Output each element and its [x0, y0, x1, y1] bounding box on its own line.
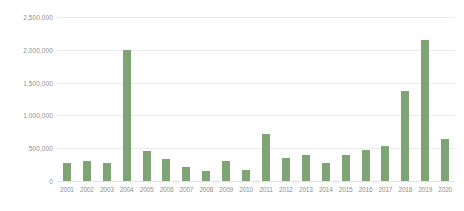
- x-axis-tick-label: 2019: [415, 183, 435, 199]
- bar-slot: [57, 17, 77, 181]
- bar-slot: [316, 17, 336, 181]
- bar[interactable]: [123, 50, 131, 181]
- x-axis-tick-label: 2011: [256, 183, 276, 199]
- y-axis-tick-label: 500,000: [29, 145, 53, 152]
- bar[interactable]: [322, 163, 330, 181]
- bar-slot: [137, 17, 157, 181]
- x-axis: 2001200220032004200520062007200820092010…: [57, 183, 455, 199]
- x-axis-tick-label: 2010: [236, 183, 256, 199]
- bar[interactable]: [441, 139, 449, 181]
- x-axis-tick-label: 2008: [196, 183, 216, 199]
- bar-slot: [395, 17, 415, 181]
- bar-chart: 0500,0001,000,0001,500,0002,000,0002,500…: [0, 0, 464, 211]
- y-axis-tick-label: 1,500,000: [23, 79, 53, 86]
- bar[interactable]: [83, 161, 91, 181]
- bar[interactable]: [103, 163, 111, 181]
- plot-area: [57, 17, 455, 181]
- x-axis-tick-label: 2002: [77, 183, 97, 199]
- bar-slot: [296, 17, 316, 181]
- bar-slot: [196, 17, 216, 181]
- bar[interactable]: [262, 134, 270, 181]
- bar-series: [57, 17, 455, 181]
- x-axis-tick-label: 2018: [395, 183, 415, 199]
- bar[interactable]: [362, 150, 370, 181]
- bar[interactable]: [342, 155, 350, 181]
- bar-slot: [157, 17, 177, 181]
- x-axis-tick-label: 2003: [97, 183, 117, 199]
- x-axis-tick-label: 2017: [376, 183, 396, 199]
- x-axis-tick-label: 2012: [276, 183, 296, 199]
- x-axis-tick-label: 2007: [176, 183, 196, 199]
- bar[interactable]: [282, 158, 290, 181]
- bar-slot: [236, 17, 256, 181]
- bar[interactable]: [242, 170, 250, 181]
- x-axis-tick-label: 2020: [435, 183, 455, 199]
- bar[interactable]: [143, 151, 151, 181]
- bar-slot: [256, 17, 276, 181]
- bar-slot: [216, 17, 236, 181]
- x-axis-tick-label: 2001: [57, 183, 77, 199]
- bar[interactable]: [63, 163, 71, 181]
- x-axis-tick-label: 2016: [356, 183, 376, 199]
- bar-slot: [77, 17, 97, 181]
- x-axis-tick-label: 2014: [316, 183, 336, 199]
- x-axis-tick-label: 2005: [137, 183, 157, 199]
- bar[interactable]: [302, 155, 310, 181]
- bar[interactable]: [202, 171, 210, 181]
- bar-slot: [336, 17, 356, 181]
- y-axis-tick-label: 1,000,000: [23, 112, 53, 119]
- bar-slot: [117, 17, 137, 181]
- x-axis-tick-label: 2006: [157, 183, 177, 199]
- bar[interactable]: [182, 167, 190, 181]
- bar-slot: [176, 17, 196, 181]
- bar[interactable]: [222, 161, 230, 181]
- y-axis-tick-label: 2,500,000: [23, 14, 53, 21]
- bar-slot: [435, 17, 455, 181]
- bar-slot: [97, 17, 117, 181]
- x-axis-tick-label: 2004: [117, 183, 137, 199]
- y-axis-tick-label: 0: [49, 178, 53, 185]
- bar[interactable]: [381, 146, 389, 181]
- axis-baseline: [57, 181, 455, 182]
- bar[interactable]: [421, 40, 429, 181]
- y-axis-tick-label: 2,000,000: [23, 46, 53, 53]
- x-axis-tick-label: 2009: [216, 183, 236, 199]
- y-axis: 0500,0001,000,0001,500,0002,000,0002,500…: [0, 17, 53, 181]
- bar[interactable]: [401, 91, 409, 181]
- bar-slot: [276, 17, 296, 181]
- bar-slot: [415, 17, 435, 181]
- bar-slot: [376, 17, 396, 181]
- bar[interactable]: [162, 159, 170, 181]
- bar-slot: [356, 17, 376, 181]
- x-axis-tick-label: 2013: [296, 183, 316, 199]
- x-axis-tick-label: 2015: [336, 183, 356, 199]
